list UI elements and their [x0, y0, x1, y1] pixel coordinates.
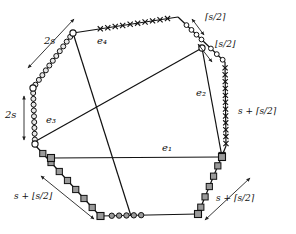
left-edge-circle-marker: [31, 108, 36, 113]
upper-left-circle-marker: [47, 63, 52, 68]
vertex-top-left: [70, 30, 76, 36]
lower-right-square-marker: [202, 194, 208, 200]
upper-right-a-circle-marker: [189, 28, 194, 33]
chord-e3: [36, 48, 202, 141]
left-edge-circle-marker: [32, 125, 37, 130]
upper-left-circle-marker: [54, 53, 59, 58]
upper-right-b-circle-marker: [209, 46, 214, 51]
label-bottom-right: s + ⌈s/2⌉: [216, 194, 254, 203]
lower-left-square-marker: [89, 204, 95, 210]
vertex-left-lower: [32, 141, 38, 147]
bottom-edge-circle-markers: [109, 212, 144, 218]
label-edge-e4: e₄: [97, 36, 107, 46]
left-edge-circle-markers: [31, 91, 38, 142]
bottom-edge-circle-marker: [138, 212, 143, 217]
lower-left-square-marker: [73, 186, 79, 192]
upper-left-circle-marker: [61, 44, 66, 49]
upper-left-circle-marker: [36, 77, 41, 82]
upper-left-circle-marker: [57, 49, 62, 54]
lower-right-square-marker: [215, 163, 221, 169]
vertex-left-upper: [30, 85, 36, 91]
label-right-side: s + ⌈s/2⌉: [238, 107, 276, 116]
chord-e2: [202, 48, 222, 157]
label-edge-e3: e₃: [46, 115, 56, 125]
label-edge-e2: e₂: [196, 88, 206, 98]
chord-group: [36, 33, 222, 216]
upper-right-b-circle-marker: [214, 52, 219, 57]
edge-top: [73, 17, 178, 33]
lower-right-square-marker: [198, 204, 204, 210]
vertex-square-left: [48, 155, 55, 162]
vertex-square-bottom-right: [195, 211, 202, 218]
label-2s-upper-left: 2s: [44, 36, 56, 46]
label-edge-e1: e₁: [162, 143, 172, 153]
upper-left-circle-marker: [64, 39, 69, 44]
label-floor-right-upper: ⌊s/2⌋: [215, 40, 235, 49]
label-2s-left: 2s: [5, 110, 17, 120]
chord-e1: [51, 157, 222, 158]
chord-e4: [73, 33, 131, 216]
upper-right-a-circle-marker: [184, 23, 189, 28]
upper-left-circle-marker: [40, 73, 45, 78]
left-edge-circle-marker: [32, 114, 37, 119]
lower-right-square-marker: [210, 173, 216, 179]
left-edge-circle-marker: [32, 131, 37, 136]
lower-left-square-marker: [64, 177, 70, 183]
upper-left-circle-marker: [50, 58, 55, 63]
upper-left-circle-marker: [43, 68, 48, 73]
lower-left-square-marker: [56, 168, 62, 174]
bottom-edge-circle-marker: [116, 213, 121, 218]
bottom-edge-circle-marker: [109, 213, 114, 218]
lower-left-square-marker: [40, 150, 46, 156]
upper-right-a-circle-marker: [199, 37, 204, 42]
label-ceil-top-right: ⌈s/2⌉: [205, 13, 225, 22]
bottom-edge-circle-marker: [124, 213, 129, 218]
upper-right-b-circle-marker: [220, 57, 225, 62]
vertex-square-right: [219, 154, 226, 161]
left-edge-circle-marker: [31, 96, 36, 101]
lower-right-square-marker: [206, 183, 212, 189]
vertex-square-bottom-left: [97, 213, 104, 220]
bottom-edge-circle-marker: [131, 213, 136, 218]
left-edge-circle-marker: [32, 120, 37, 125]
upper-right-a-circle-marker: [194, 32, 199, 37]
label-bottom-left: s + ⌊s/2⌋: [14, 192, 52, 201]
left-edge-circle-marker: [31, 102, 36, 107]
lower-left-square-marker: [81, 195, 87, 201]
